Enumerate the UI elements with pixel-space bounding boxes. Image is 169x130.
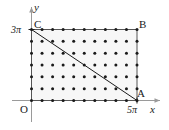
lattice-dot bbox=[93, 87, 96, 90]
lattice-dot bbox=[41, 75, 44, 78]
lattice-dot bbox=[62, 28, 65, 31]
lattice-dot bbox=[72, 28, 75, 31]
lattice-dot bbox=[51, 64, 54, 67]
lattice-dot bbox=[51, 28, 54, 31]
lattice-dot bbox=[104, 99, 107, 102]
lattice-dot bbox=[93, 28, 96, 31]
lattice-dot bbox=[114, 75, 117, 78]
lattice-dot bbox=[41, 40, 44, 43]
lattice-dot bbox=[104, 28, 107, 31]
lattice-dot bbox=[83, 52, 86, 55]
lattice-dot bbox=[41, 99, 44, 102]
lattice-dot bbox=[104, 75, 107, 78]
lattice-dot bbox=[72, 99, 75, 102]
origin-label: O bbox=[20, 104, 28, 115]
lattice-dot bbox=[62, 87, 65, 90]
lattice-dot bbox=[62, 52, 65, 55]
lattice-dot bbox=[62, 99, 65, 102]
lattice-dot bbox=[93, 99, 96, 102]
y-tick-label-3pi: 3π bbox=[11, 25, 21, 35]
lattice-dot bbox=[104, 52, 107, 55]
lattice-dot bbox=[125, 28, 128, 31]
lattice-dot bbox=[72, 64, 75, 67]
lattice-dot bbox=[136, 52, 139, 55]
lattice-dot bbox=[136, 40, 139, 43]
lattice-dot bbox=[30, 40, 33, 43]
math-figure: y x O 3π 5π A B C bbox=[0, 0, 169, 130]
lattice-dot bbox=[125, 87, 128, 90]
lattice-dot bbox=[114, 28, 117, 31]
lattice-dot bbox=[114, 64, 117, 67]
lattice-dot bbox=[83, 75, 86, 78]
vertex-label-A: A bbox=[137, 88, 145, 99]
lattice-dot bbox=[41, 87, 44, 90]
lattice-dot bbox=[104, 40, 107, 43]
lattice-dot bbox=[104, 64, 107, 67]
lattice-dot bbox=[93, 75, 96, 78]
lattice-dot bbox=[30, 52, 33, 55]
x-tick-label-5pi: 5π bbox=[127, 105, 137, 115]
lattice-dot bbox=[114, 87, 117, 90]
lattice-dot bbox=[41, 52, 44, 55]
lattice-dot bbox=[72, 40, 75, 43]
lattice-dot bbox=[136, 75, 139, 78]
lattice-dot bbox=[125, 99, 128, 102]
lattice-dot bbox=[83, 87, 86, 90]
lattice-dot bbox=[51, 99, 54, 102]
lattice-dot bbox=[104, 87, 107, 90]
vertex-label-C: C bbox=[34, 19, 41, 30]
lattice-dot bbox=[62, 75, 65, 78]
lattice-dot bbox=[51, 75, 54, 78]
lattice-dot bbox=[93, 52, 96, 55]
lattice-dot bbox=[62, 64, 65, 67]
lattice-dot bbox=[136, 64, 139, 67]
vertex-label-B: B bbox=[139, 19, 146, 30]
lattice-dot bbox=[93, 64, 96, 67]
lattice-dot bbox=[30, 64, 33, 67]
lattice-dot bbox=[114, 99, 117, 102]
x-axis-label: x bbox=[150, 104, 155, 115]
lattice-dot bbox=[125, 64, 128, 67]
lattice-dot bbox=[30, 75, 33, 78]
lattice-dot bbox=[51, 52, 54, 55]
lattice-dot bbox=[72, 87, 75, 90]
lattice-dot bbox=[114, 52, 117, 55]
lattice-dot bbox=[93, 40, 96, 43]
lattice-dot bbox=[125, 75, 128, 78]
lattice-dot bbox=[41, 64, 44, 67]
lattice-dot bbox=[72, 75, 75, 78]
y-axis-label: y bbox=[34, 2, 39, 13]
lattice-dot bbox=[30, 87, 33, 90]
lattice-dot bbox=[83, 99, 86, 102]
lattice-dot bbox=[51, 87, 54, 90]
x-axis-arrowhead bbox=[155, 98, 161, 103]
lattice-dot bbox=[51, 40, 54, 43]
lattice-dot bbox=[72, 52, 75, 55]
lattice-dot bbox=[83, 40, 86, 43]
lattice-dot bbox=[30, 99, 33, 102]
lattice-dot bbox=[125, 40, 128, 43]
lattice-dot bbox=[125, 52, 128, 55]
lattice-dot bbox=[62, 40, 65, 43]
lattice-dot bbox=[114, 40, 117, 43]
lattice-dot bbox=[83, 28, 86, 31]
